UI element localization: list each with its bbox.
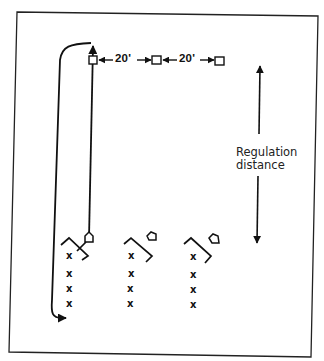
run-arrow [89,46,93,238]
station-1-plate [85,232,93,242]
player-marker: x [127,298,133,309]
player-marker: x [128,250,134,261]
diagram-canvas [0,0,324,361]
station-3-batters-box [184,238,211,263]
base-2 [152,56,161,64]
distance-label-1: 20' [115,52,131,64]
player-marker: x [190,284,196,295]
player-marker: x [66,283,72,294]
player-marker: x [128,268,134,279]
player-marker: x [66,298,72,309]
player-marker: x [66,250,72,261]
base-3 [215,57,224,65]
player-marker: x [190,299,196,310]
player-marker: x [66,268,72,279]
station-2-plate [147,232,156,240]
player-marker: x [127,283,133,294]
player-marker: x [190,269,196,280]
regulation-line-2: distance [236,159,297,172]
regulation-arrow-down [257,176,258,243]
player-marker: x [190,251,196,262]
base-1 [89,56,97,64]
distance-label-2: 20' [179,52,195,64]
station-3-plate [209,234,219,243]
regulation-distance-label: Regulation distance [236,146,297,172]
regulation-arrow-up [259,66,260,134]
